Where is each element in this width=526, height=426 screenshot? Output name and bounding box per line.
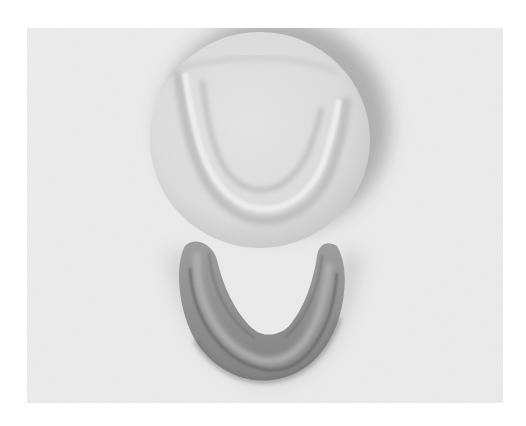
photograph xyxy=(27,28,503,403)
photo-grain xyxy=(27,28,503,403)
caption-area xyxy=(27,406,503,422)
photo-canvas xyxy=(27,28,503,403)
